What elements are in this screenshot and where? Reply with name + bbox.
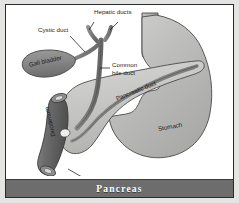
figure-caption-banner: Pancreas — [6, 179, 233, 197]
right-hepatic-duct-shape — [105, 27, 111, 40]
leader-cystic-duct — [70, 36, 85, 52]
figure-root: Hepatic ducts Cystic duct Gall bladder C… — [0, 0, 239, 203]
label-common-bile-duct-line2: bile duct — [112, 69, 135, 76]
label-common-bile-duct-line1: Common — [112, 61, 137, 68]
cystic-duct-shape — [74, 44, 99, 59]
figure-frame: Hepatic ducts Cystic duct Gall bladder C… — [5, 4, 234, 198]
label-hepatic-ducts: Hepatic ducts — [94, 8, 132, 15]
leader-hepatic-left — [89, 22, 94, 30]
label-cystic-duct: Cystic duct — [38, 26, 68, 33]
figure-title: Pancreas — [96, 184, 142, 194]
